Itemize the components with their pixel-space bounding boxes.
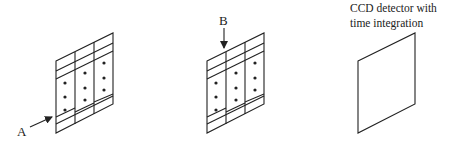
label-a: A [17, 124, 27, 139]
ccd-caption-line2: time integration [350, 17, 423, 30]
ccd-caption-line1: CCD detector with [350, 2, 437, 14]
diagram-canvas: A B CCD detector with time integration [0, 0, 459, 141]
arrow-a-icon [30, 117, 52, 127]
ccd-detector-plane [358, 33, 415, 133]
grating-panel-b [207, 33, 264, 133]
label-b: B [219, 13, 228, 28]
grating-panel-a [56, 33, 113, 133]
